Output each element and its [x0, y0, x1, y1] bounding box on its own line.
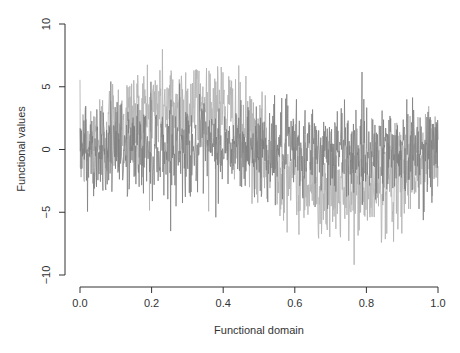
x-axis: 0.00.20.40.60.81.0: [72, 287, 445, 309]
line-chart: −10−50510 0.00.20.40.60.81.0 Functional …: [0, 0, 460, 353]
x-tick-label: 0.0: [72, 297, 87, 309]
x-axis-title: Functional domain: [214, 324, 304, 336]
y-tick-label: −5: [40, 206, 52, 219]
x-tick-label: 1.0: [430, 297, 445, 309]
plot-area: [80, 49, 438, 265]
y-tick-label: −10: [40, 266, 52, 285]
y-axis-title: Functional values: [15, 106, 27, 192]
x-tick-label: 0.8: [359, 297, 374, 309]
x-tick-label: 0.6: [287, 297, 302, 309]
y-tick-label: 5: [40, 84, 52, 90]
x-tick-label: 0.2: [144, 297, 159, 309]
y-tick-label: 0: [40, 146, 52, 152]
x-tick-label: 0.4: [216, 297, 231, 309]
y-tick-label: 10: [40, 18, 52, 30]
y-axis: −10−50510: [40, 18, 65, 284]
